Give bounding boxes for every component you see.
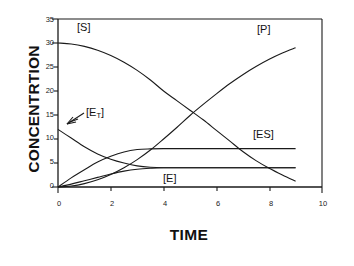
chart-svg bbox=[0, 0, 354, 266]
curve-P bbox=[58, 48, 296, 187]
y-ticks bbox=[52, 19, 58, 187]
et-arrow-icon bbox=[67, 113, 84, 124]
data-curves bbox=[58, 43, 296, 187]
x-ticks bbox=[58, 187, 322, 193]
curve-E bbox=[58, 168, 296, 187]
chart-figure: CONCENTRTION TIME 35 30 25 20 15 10 5 0 … bbox=[0, 0, 354, 266]
